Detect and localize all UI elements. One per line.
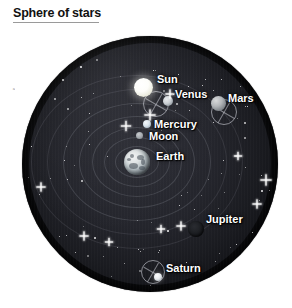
label-mars: Mars bbox=[228, 92, 254, 104]
title-underline bbox=[13, 22, 99, 23]
label-moon: Moon bbox=[149, 130, 178, 142]
sphere-of-stars bbox=[22, 36, 278, 292]
star-sparkle bbox=[165, 90, 174, 99]
label-mercury: Mercury bbox=[154, 118, 197, 130]
label-earth: Earth bbox=[156, 150, 184, 162]
star-sparkle bbox=[80, 231, 89, 240]
star-sparkle bbox=[253, 200, 262, 209]
star-sparkle bbox=[157, 225, 165, 233]
title-block: Sphere of stars bbox=[13, 6, 101, 23]
edge-caption: a bbox=[0, 86, 15, 91]
page-title: Sphere of stars bbox=[13, 6, 101, 20]
star-sparkle bbox=[36, 182, 45, 191]
label-jupiter: Jupiter bbox=[206, 213, 243, 225]
star-sparkle bbox=[260, 175, 271, 186]
star-sparkle bbox=[234, 152, 242, 160]
sphere-highlight bbox=[22, 36, 278, 292]
star-sparkle bbox=[121, 121, 131, 131]
label-sun: Sun bbox=[157, 73, 178, 85]
star-sparkle bbox=[177, 221, 186, 230]
label-venus: Venus bbox=[175, 88, 207, 100]
star-sparkle bbox=[105, 238, 113, 246]
celestial-sphere-diagram: SunVenusMercuryMoonEarthMarsJupiterSatur… bbox=[0, 0, 292, 308]
label-saturn: Saturn bbox=[166, 262, 201, 274]
